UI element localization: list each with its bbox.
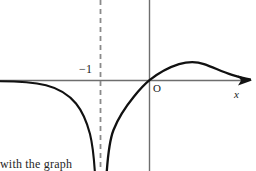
x-axis-label: x xyxy=(234,89,239,100)
figure-container: −1 O x with the graph xyxy=(0,0,256,171)
function-graph-svg xyxy=(0,0,256,171)
axis-tick-label-minus-one: −1 xyxy=(79,63,92,75)
figure-background xyxy=(0,0,256,171)
figure-caption: with the graph xyxy=(0,157,72,171)
origin-label: O xyxy=(153,83,161,94)
